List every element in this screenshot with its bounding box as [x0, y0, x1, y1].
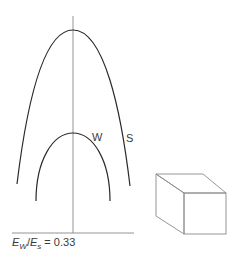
ratio-equals: = [41, 236, 54, 248]
ratio-value: 0.33 [54, 236, 75, 248]
box-left-face [156, 174, 184, 234]
box-front-face [184, 193, 226, 234]
outer-curve-s [17, 30, 130, 186]
box-top-face [156, 174, 226, 193]
modulus-ratio-label: EW/Es = 0.33 [12, 237, 75, 251]
ratio-sub1: W [19, 242, 27, 251]
box-shape [156, 174, 226, 234]
diagram-svg [0, 0, 242, 261]
label-w: W [92, 132, 102, 143]
label-s: S [126, 133, 133, 144]
